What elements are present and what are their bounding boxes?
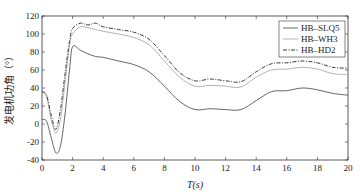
x-tick-label: 20 xyxy=(344,163,354,173)
x-axis-title: T(s) xyxy=(187,179,204,191)
x-tick-label: 4 xyxy=(101,163,106,173)
y-tick-label: 120 xyxy=(26,11,40,21)
legend: HB–SLQ5HB–WH3HB–HD2 xyxy=(279,21,345,57)
legend-label: HB–WH3 xyxy=(301,34,338,44)
y-tick-label: 80 xyxy=(30,47,40,57)
series-line xyxy=(42,46,348,154)
x-tick-label: 16 xyxy=(282,163,292,173)
x-tick-label: 14 xyxy=(252,163,262,173)
y-tick-label: -40 xyxy=(27,155,39,165)
y-axis-title: 发电机功角（°） xyxy=(3,51,15,125)
x-tick-label: 12 xyxy=(221,163,230,173)
y-tick-label: 60 xyxy=(30,65,40,75)
y-tick-label: 20 xyxy=(30,101,40,111)
y-tick-label: 100 xyxy=(26,29,40,39)
x-tick-label: 6 xyxy=(132,163,137,173)
x-tick-label: 10 xyxy=(191,163,201,173)
x-tick-label: 18 xyxy=(313,163,323,173)
y-tick-label: -20 xyxy=(27,137,39,147)
x-tick-label: 0 xyxy=(40,163,45,173)
x-tick-label: 8 xyxy=(162,163,167,173)
x-tick-label: 2 xyxy=(70,163,75,173)
legend-label: HB–SLQ5 xyxy=(301,23,340,33)
y-tick-label: 0 xyxy=(35,119,40,129)
legend-label: HB–HD2 xyxy=(301,45,336,55)
y-tick-label: 40 xyxy=(30,83,40,93)
line-chart: 02468101214161820 -40-20020406080100120 … xyxy=(0,0,360,192)
